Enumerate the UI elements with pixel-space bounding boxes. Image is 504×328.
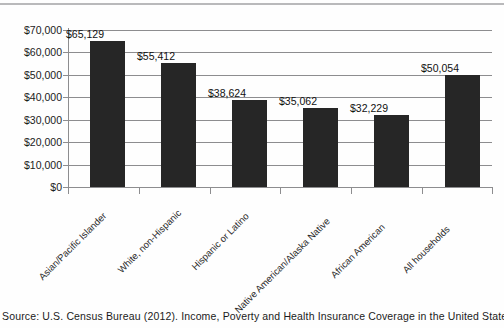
y-tick-label-50000: $50,000 [2,70,62,81]
gridline-10000 [68,165,492,166]
x-tick-mark [280,188,281,194]
bar-white-non-hispanic[interactable] [161,63,196,187]
gridline-20000 [68,142,492,143]
x-category-label-white-non-hispanic: White, non-Hispanic [116,208,183,275]
bar-value-asian-pacific-islander: $65,129 [50,29,120,40]
y-tick-label-60000: $60,000 [2,47,62,58]
gridline-30000 [68,120,492,121]
bar-all-households[interactable] [445,75,480,187]
bar-asian-pacific-islander[interactable] [90,41,125,187]
bar-value-hispanic-or-latino: $38,624 [192,88,262,99]
x-category-label-all-households: All households [401,224,452,275]
bar-chart-figure: $70,000 $60,000 $50,000 $40,000 $30,000 … [0,8,504,304]
x-category-label-native-american-alaska-native: Native American/Alaska Native [233,216,332,315]
x-tick-mark [139,188,140,194]
y-tick-label-0: $0 [2,182,62,193]
y-tick-label-10000: $10,000 [2,160,62,171]
x-tick-mark [422,188,423,194]
x-category-label-hispanic-or-latino: Hispanic or Latino [190,211,251,272]
bar-hispanic-or-latino[interactable] [232,100,267,187]
page-top-rule [0,3,504,5]
x-tick-mark [210,188,211,194]
x-category-label-african-american: African American [329,222,387,280]
x-tick-mark [492,188,493,194]
gridline-50000 [68,75,492,76]
gridline-70000 [68,30,492,31]
x-tick-mark [351,188,352,194]
bar-african-american[interactable] [374,115,409,187]
bar-value-white-non-hispanic: $55,412 [121,51,191,62]
bar-native-american-alaska-native[interactable] [303,108,338,187]
source-caption: Source: U.S. Census Bureau (2012). Incom… [2,310,504,323]
page: $70,000 $60,000 $50,000 $40,000 $30,000 … [0,0,504,328]
y-tick-label-20000: $20,000 [2,137,62,148]
bar-value-native-american-alaska-native: $35,062 [263,96,333,107]
x-tick-mark [68,188,69,194]
bar-value-all-households: $50,054 [405,63,475,74]
y-tick-label-40000: $40,000 [2,92,62,103]
y-tick-label-30000: $30,000 [2,115,62,126]
bar-value-african-american: $32,229 [334,103,404,114]
